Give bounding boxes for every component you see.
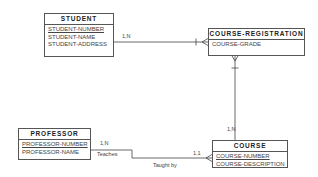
attribute-professor-number: PROFESSOR-NUMBER bbox=[22, 141, 87, 149]
entity-student[interactable]: STUDENT STUDENT-NUMBER STUDENT-NAME STUD… bbox=[44, 13, 114, 57]
attribute-course-description: COURSE-DESCRIPTION bbox=[216, 161, 284, 169]
entity-course-registration[interactable]: COURSE-REGISTRATION COURSE-GRADE bbox=[208, 28, 305, 56]
cardinality-course-professor: 1,1 bbox=[193, 150, 201, 156]
entity-professor[interactable]: PROFESSOR PROFESSOR-NUMBER PROFESSOR-NAM… bbox=[18, 128, 91, 160]
entity-title: PROFESSOR bbox=[19, 129, 90, 140]
relationship-label-taught-by: Taught by bbox=[153, 162, 177, 168]
entity-title: COURSE bbox=[213, 141, 287, 152]
attribute-professor-name: PROFESSOR-NAME bbox=[22, 149, 87, 157]
attribute-student-address: STUDENT-ADDRESS bbox=[48, 41, 110, 49]
entity-title: COURSE-REGISTRATION bbox=[209, 29, 304, 40]
cardinality-student-registration: 1,N bbox=[122, 33, 131, 39]
entity-title: STUDENT bbox=[45, 14, 113, 25]
entity-course[interactable]: COURSE COURSE-NUMBER COURSE-DESCRIPTION bbox=[212, 140, 288, 168]
attribute-student-number: STUDENT-NUMBER bbox=[48, 26, 110, 34]
attribute-course-grade: COURSE-GRADE bbox=[212, 41, 301, 49]
cardinality-course-registration: 1,N bbox=[227, 126, 236, 132]
attribute-course-number: COURSE-NUMBER bbox=[216, 153, 284, 161]
cardinality-professor: 1,N bbox=[100, 140, 109, 146]
relationship-label-teaches: Teaches bbox=[97, 151, 118, 157]
attribute-student-name: STUDENT-NAME bbox=[48, 34, 110, 42]
